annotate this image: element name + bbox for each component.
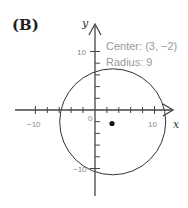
- center-annotation: Center: (3, −2): [106, 40, 177, 52]
- center-point: [109, 121, 114, 126]
- radius-annotation: Radius: 9: [106, 56, 152, 68]
- x-axis-name: x: [173, 118, 180, 131]
- circle-graph: −10 0 10 10 −10 y x Center: (3, −2) Radi…: [0, 0, 188, 208]
- origin-label: 0: [88, 114, 93, 123]
- y-axis-name: y: [81, 17, 89, 30]
- x-tick-label: −10: [27, 120, 41, 129]
- x-tick-label: 10: [148, 120, 157, 129]
- y-tick-label: 10: [77, 48, 86, 57]
- y-tick-label: −10: [73, 165, 87, 174]
